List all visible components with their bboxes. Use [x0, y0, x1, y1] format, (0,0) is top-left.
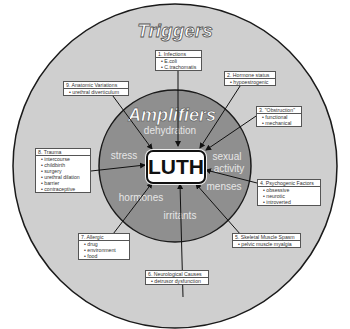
amplifier-menses: menses [206, 181, 241, 192]
trigger-header: 1. Infections [156, 51, 201, 58]
amplifier-sexual: sexual [213, 151, 242, 162]
trigger-header: 4. Psychogenic Factors [258, 180, 320, 187]
trigger-header: 3. "Obstruction" [257, 107, 301, 114]
trigger-header: 7. Allergic [79, 234, 129, 241]
trigger-header: 5. Skeletal Muscle Spasm [233, 234, 300, 241]
luth-center-box: LUTH [146, 150, 206, 184]
amplifier-dehydration: dehydration [144, 125, 196, 136]
amplifier-stress: stress [111, 150, 138, 161]
trigger-header: 2. Hormone status [225, 72, 275, 79]
trigger-item: food [84, 253, 127, 259]
luth-label: LUTH [148, 155, 204, 179]
trigger-header: 8. Trauma [36, 149, 90, 156]
trigger-obstruction: 3. "Obstruction" functionalmechanical [256, 106, 302, 127]
trigger-infections: 1. Infections E.coliC.trachomatis [155, 50, 202, 71]
trigger-header: 9. Anatomic Variations [64, 82, 128, 89]
amplifiers-title: Amplifiers [127, 105, 216, 125]
trigger-item: contraceptive [41, 186, 88, 192]
trigger-item: hypoestrogenic [230, 79, 273, 85]
trigger-psychogenic-factors: 4. Psychogenic Factors obsessiveneurotic… [257, 179, 321, 206]
triggers-title: Triggers [137, 20, 213, 41]
trigger-item: pelvic muscle myalgia [238, 241, 298, 247]
amplifier-irritants: irritants [164, 210, 197, 221]
trigger-allergic: 7. Allergic drugenvironmentfood [78, 233, 130, 260]
trigger-item: introverted [263, 199, 318, 205]
trigger-skeletal-muscle-spasm: 5. Skeletal Muscle Spasm pelvic muscle m… [232, 233, 301, 248]
trigger-item: detrusor dysfunction [151, 278, 206, 284]
trigger-header: 6. Neurological Causes [146, 271, 208, 278]
trigger-item: urethral diverticulum [69, 89, 126, 95]
trigger-neurological-causes: 6. Neurological Causes detrusor dysfunct… [145, 270, 209, 285]
trigger-item: mechanical [262, 120, 299, 126]
trigger-trauma: 8. Trauma intercoursechildbirthsurgeryur… [35, 148, 91, 193]
trigger-item: C.trachomatis [161, 64, 199, 70]
trigger-hormone-status: 2. Hormone status hypoestrogenic [224, 71, 276, 86]
amplifier-activity: activity [214, 163, 245, 174]
trigger-anatomic-variations: 9. Anatomic Variations urethral divertic… [63, 81, 129, 96]
